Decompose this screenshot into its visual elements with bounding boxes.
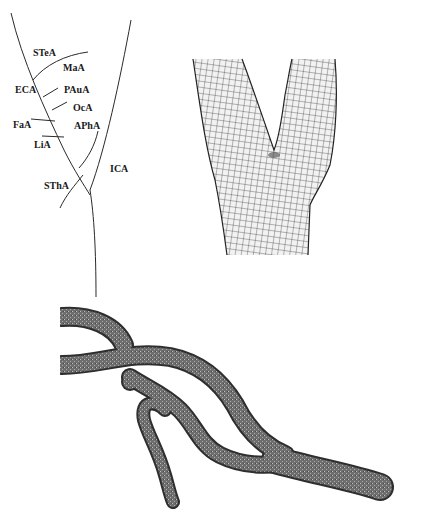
label-stha: SThA — [44, 180, 70, 191]
cca-line — [90, 190, 96, 297]
label-apha: APhA — [74, 120, 101, 131]
faa-branch-line — [31, 119, 55, 121]
label-stea: STeA — [33, 47, 57, 58]
lia-branch-line — [42, 136, 64, 137]
label-lia: LiA — [34, 139, 51, 150]
label-eca: ECA — [15, 84, 37, 95]
label-paua: PAuA — [64, 84, 90, 95]
vessel-3d-reconstruction — [60, 295, 422, 520]
carotid-schematic: STeA MaA ECA PAuA OcA FaA APhA LiA ICA S… — [0, 0, 180, 300]
bifurcation-mesh — [190, 55, 360, 255]
label-oca: OcA — [73, 102, 93, 113]
label-ica: ICA — [110, 163, 129, 174]
oca-branch-line — [52, 102, 67, 110]
label-maa: MaA — [63, 62, 85, 73]
paua-branch-line — [43, 88, 58, 97]
bifurcation-apex — [268, 152, 280, 158]
label-faa: FaA — [13, 119, 32, 130]
apha-branch-line — [79, 131, 98, 168]
